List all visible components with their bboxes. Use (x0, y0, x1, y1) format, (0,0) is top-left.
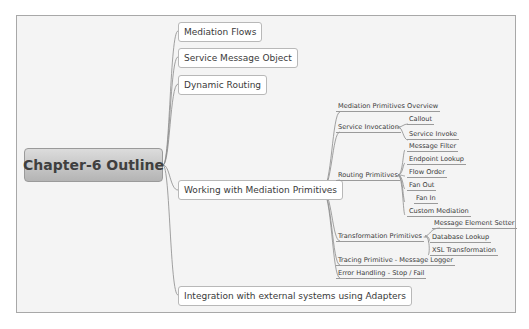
node-mediation-flows[interactable]: Mediation Flows (178, 22, 262, 42)
node-dynamic-routing[interactable]: Dynamic Routing (178, 75, 267, 95)
node-transformation-primitives[interactable]: Transformation Primitives (336, 231, 424, 242)
node-service-message-object[interactable]: Service Message Object (178, 48, 298, 68)
node-fan-in[interactable]: Fan In (414, 193, 438, 204)
collapse-icon[interactable]: = (396, 173, 402, 178)
node-message-filter[interactable]: Message Filter (407, 141, 458, 152)
root-label: Chapter-6 Outline (23, 157, 164, 173)
node-endpoint-lookup[interactable]: Endpoint Lookup (407, 154, 466, 165)
node-primitives-overview[interactable]: Mediation Primitives Overview (336, 101, 440, 112)
node-integration-adapters[interactable]: Integration with external systems using … (178, 286, 412, 306)
node-tracing-message-logger[interactable]: Tracing Primitive - Message Logger (336, 255, 455, 266)
node-fan-out[interactable]: Fan Out (407, 180, 436, 191)
node-service-invocation[interactable]: Service Invocation (336, 122, 401, 133)
root-node[interactable]: Chapter-6 Outline (24, 148, 163, 182)
node-callout[interactable]: Callout (407, 114, 434, 125)
node-database-lookup[interactable]: Database Lookup (430, 232, 491, 243)
collapse-icon[interactable]: = (396, 125, 402, 130)
node-service-invoke[interactable]: Service Invoke (407, 129, 459, 140)
collapse-icon[interactable]: = (423, 234, 429, 239)
node-error-handling[interactable]: Error Handling - Stop / Fail (336, 268, 426, 279)
node-routing-primitives[interactable]: Routing Primitives (336, 170, 400, 181)
node-custom-mediation[interactable]: Custom Mediation (407, 206, 471, 217)
node-message-element-setter[interactable]: Message Element Setter (432, 218, 517, 229)
node-flow-order[interactable]: Flow Order (407, 167, 447, 178)
node-working-mediation-primitives[interactable]: Working with Mediation Primitives (178, 180, 343, 200)
collapse-icon[interactable]: = (324, 187, 330, 192)
